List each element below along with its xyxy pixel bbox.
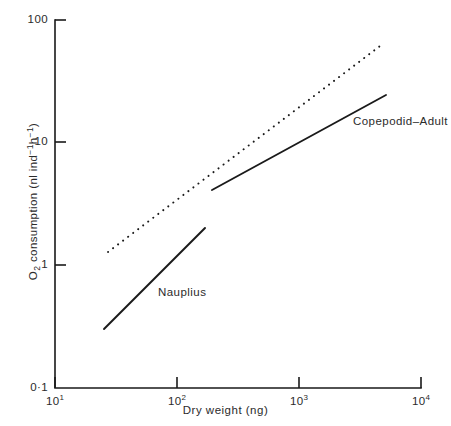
y-tick-label-0-1: 0·1	[4, 381, 48, 393]
x-tick-exponent-10e3: 3	[304, 393, 308, 402]
x-tick-exponent-10e1: 1	[60, 393, 64, 402]
y-axis-title-sup-ind: −1	[25, 144, 35, 155]
series-line-pooled-dotted	[108, 43, 384, 252]
x-tick-exponent-10e2: 2	[182, 393, 186, 402]
figure-oxygen-consumption-vs-dry-weight: 100 10 1 0·1 101 102 103 104 Dry weight …	[0, 0, 451, 426]
series-line-copepodid-adult	[212, 95, 386, 190]
y-axis-title: O2 consumption (nl ind−1h−1)	[25, 71, 40, 331]
y-tick-label-100: 100	[8, 13, 48, 25]
y-axis-title-o: O	[27, 271, 39, 280]
axis-spines	[55, 20, 421, 388]
y-axis-title-suffix: )	[27, 123, 39, 127]
y-axis-title-mid: consumption (nl ind	[27, 155, 39, 266]
y-axis-title-subscript-2: 2	[32, 266, 42, 271]
series-label-nauplius: Nauplius	[158, 286, 206, 298]
y-axis-title-mid2: h	[27, 137, 39, 144]
y-axis-title-sup-h: −1	[25, 127, 35, 138]
x-axis-title: Dry weight (ng)	[0, 404, 451, 416]
series-line-nauplius	[104, 228, 205, 329]
x-tick-exponent-10e4: 4	[426, 393, 430, 402]
plot-canvas	[0, 0, 451, 426]
series-label-copepodid-adult: Copepodid–Adult	[353, 115, 448, 127]
